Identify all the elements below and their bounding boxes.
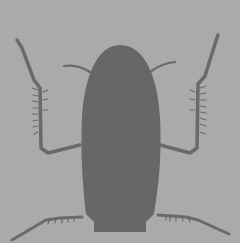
- insect-silhouette-image: insect silhouette: [0, 0, 240, 243]
- body: [81, 45, 160, 232]
- insect-illustration: [0, 0, 240, 243]
